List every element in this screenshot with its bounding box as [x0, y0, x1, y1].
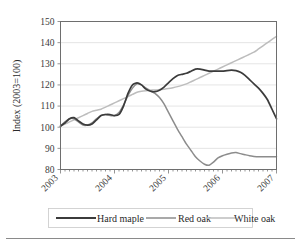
legend-label-hard-maple: Hard maple — [97, 213, 144, 224]
y-tick-label: 90 — [45, 144, 55, 154]
y-tick-label: 130 — [40, 59, 55, 69]
y-tick-label: 140 — [40, 38, 55, 48]
chart-background — [0, 0, 301, 243]
y-tick-label: 110 — [41, 101, 55, 111]
figure-container: 1501401301201101009080 20032004200520062… — [0, 0, 301, 243]
y-axis-title: Index (2003=100) — [11, 60, 23, 133]
y-tick-label: 100 — [40, 123, 55, 133]
legend-label-white-oak: White oak — [234, 213, 275, 224]
y-tick-label: 120 — [40, 80, 55, 90]
y-tick-label: 150 — [40, 17, 55, 27]
line-chart: 1501401301201101009080 20032004200520062… — [0, 0, 301, 243]
